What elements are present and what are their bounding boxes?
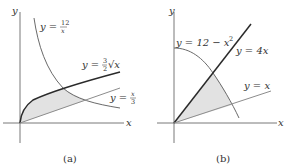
svg-text:y = 12 − x: y = 12 − x: [175, 37, 230, 48]
svg-text:y =: y =: [109, 92, 127, 103]
y-axis-label-b: y: [168, 5, 175, 16]
panel-a: y x y = 12 x y = 3 2 √x y = x 3 (a): [3, 5, 136, 164]
svg-text:2: 2: [103, 65, 107, 73]
svg-text:12: 12: [61, 19, 69, 27]
shaded-region-a: [20, 88, 87, 123]
figure: y x y = 12 x y = 3 2 √x y = x 3 (a): [0, 0, 284, 168]
caption-a: (a): [63, 153, 77, 164]
panel-b: y x y = 12 − x 2 y = 4x y = x (b): [157, 5, 284, 164]
svg-text:x: x: [131, 90, 135, 98]
x-axis-label-b: x: [278, 117, 284, 128]
svg-text:y =: y =: [81, 59, 99, 70]
label-diagonal-line: y = x: [243, 80, 270, 91]
shaded-region-b: [174, 73, 232, 123]
svg-text:2: 2: [229, 35, 233, 43]
svg-text:3: 3: [103, 57, 107, 65]
svg-text:x: x: [61, 27, 65, 35]
svg-text:3: 3: [131, 98, 135, 106]
label-line: y = x 3: [109, 90, 136, 106]
caption-b: (b): [216, 153, 230, 164]
label-parabola: y = 12 − x 2: [175, 35, 233, 48]
svg-text:y =: y =: [39, 21, 57, 32]
label-root: y = 3 2 √x: [81, 57, 120, 73]
y-axis-label-a: y: [11, 5, 18, 16]
label-steep-line: y = 4x: [235, 45, 269, 56]
x-axis-label-a: x: [126, 117, 132, 128]
svg-text:√x: √x: [108, 59, 120, 70]
label-hyperbola: y = 12 x: [39, 19, 69, 35]
